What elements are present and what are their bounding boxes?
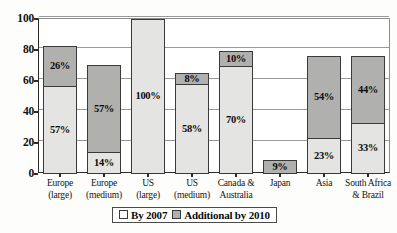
x-tick-label-line1: Canada &: [218, 178, 255, 188]
x-tick-mark: [235, 173, 237, 177]
bar-stack[interactable]: 100%: [131, 19, 165, 173]
x-tick-mark: [191, 173, 193, 177]
x-tick-label-line2: Australia: [208, 190, 264, 202]
bar-segment-additional[interactable]: 10%: [219, 51, 253, 67]
x-tick-label-line1: South Africa: [345, 178, 391, 188]
x-tick-label-line1: Europe: [47, 178, 73, 188]
bar-segment-by2007[interactable]: 100%: [131, 19, 165, 174]
bar-segment-label: 26%: [50, 61, 70, 72]
y-tick-label-60: 60: [4, 74, 34, 86]
bar-segment-label: 58%: [182, 124, 202, 135]
bar-stack[interactable]: 8%58%: [175, 73, 209, 173]
x-tick-mark: [279, 173, 281, 177]
x-tick-mark: [147, 173, 149, 177]
gridline-100: [39, 16, 389, 17]
y-tick-label-40: 40: [4, 105, 34, 117]
y-axis: 020406080100: [0, 0, 34, 233]
x-axis: Europe(large)Europe(medium)US(large)US(m…: [38, 173, 390, 207]
bar-segment-by2007[interactable]: 14%: [87, 152, 121, 174]
bar-segment-label: 33%: [358, 143, 378, 154]
bar-slot: 57%14%: [82, 18, 126, 173]
bar-segment-label: 10%: [226, 54, 246, 65]
legend-swatch-icon: [119, 210, 128, 219]
legend-label: Additional by 2010: [184, 209, 270, 221]
x-tick-mark: [367, 173, 369, 177]
bar-segment-additional[interactable]: 54%: [307, 56, 341, 140]
y-tick-label-100: 100: [4, 12, 34, 24]
bar-segment-additional[interactable]: 44%: [351, 56, 385, 124]
bar-slot: 10%70%: [214, 18, 258, 173]
bar-stack[interactable]: 9%: [263, 160, 297, 173]
bar-segment-additional[interactable]: 57%: [87, 65, 121, 153]
bar-segment-label: 70%: [226, 115, 246, 126]
y-tick-label-0: 0: [4, 167, 34, 179]
legend-label: By 2007: [131, 209, 167, 221]
bar-stack[interactable]: 26%57%: [43, 46, 77, 173]
bar-slot: 44%33%: [346, 18, 390, 173]
bar-segment-by2007[interactable]: 70%: [219, 66, 253, 175]
legend-item[interactable]: Additional by 2010: [172, 209, 270, 221]
bar-segment-label: 23%: [314, 151, 334, 162]
bar-segment-label: 8%: [184, 74, 199, 85]
bar-segment-label: 57%: [94, 104, 114, 115]
bars-layer: 26%57%57%14%100%8%58%10%70%9%54%23%44%33…: [38, 18, 390, 173]
x-tick-label: South Africa& Brazil: [340, 178, 396, 201]
bar-segment-by2007[interactable]: 33%: [351, 123, 385, 174]
chart-legend: By 2007Additional by 2010: [112, 207, 277, 223]
bar-segment-label: 9%: [272, 162, 287, 173]
bar-segment-additional[interactable]: 9%: [263, 160, 297, 174]
bar-slot: 8%58%: [170, 18, 214, 173]
y-tick-label-20: 20: [4, 136, 34, 148]
chart-figure: 020406080100 26%57%57%14%100%8%58%10%70%…: [0, 0, 397, 233]
x-tick-mark: [323, 173, 325, 177]
x-tick-label-line1: Europe: [91, 178, 117, 188]
x-tick-mark: [103, 173, 105, 177]
bar-segment-label: 100%: [135, 91, 160, 102]
bar-stack[interactable]: 10%70%: [219, 51, 253, 173]
bar-slot: 100%: [126, 18, 170, 173]
bar-stack[interactable]: 44%33%: [351, 56, 385, 173]
bar-slot: 26%57%: [38, 18, 82, 173]
bar-segment-additional[interactable]: 26%: [43, 46, 77, 86]
bar-stack[interactable]: 57%14%: [87, 65, 121, 173]
bar-segment-by2007[interactable]: 58%: [175, 84, 209, 174]
x-tick-label-line1: US: [186, 178, 198, 188]
x-tick-label-line1: US: [142, 178, 154, 188]
bar-segment-by2007[interactable]: 57%: [43, 86, 77, 174]
bar-slot: 54%23%: [302, 18, 346, 173]
legend-swatch-icon: [172, 210, 181, 219]
x-tick-label-line2: & Brazil: [340, 190, 396, 202]
bar-segment-by2007[interactable]: 23%: [307, 138, 341, 174]
bar-segment-label: 54%: [314, 92, 334, 103]
x-tick-label-line1: Japan: [270, 178, 291, 188]
bar-slot: 9%: [258, 18, 302, 173]
x-tick-mark: [59, 173, 61, 177]
bar-stack[interactable]: 54%23%: [307, 56, 341, 173]
y-tick-label-80: 80: [4, 43, 34, 55]
x-tick-label-line1: Asia: [316, 178, 333, 188]
bar-segment-label: 57%: [50, 125, 70, 136]
bar-segment-label: 14%: [94, 158, 114, 169]
legend-item[interactable]: By 2007: [119, 209, 167, 221]
bar-segment-label: 44%: [358, 85, 378, 96]
